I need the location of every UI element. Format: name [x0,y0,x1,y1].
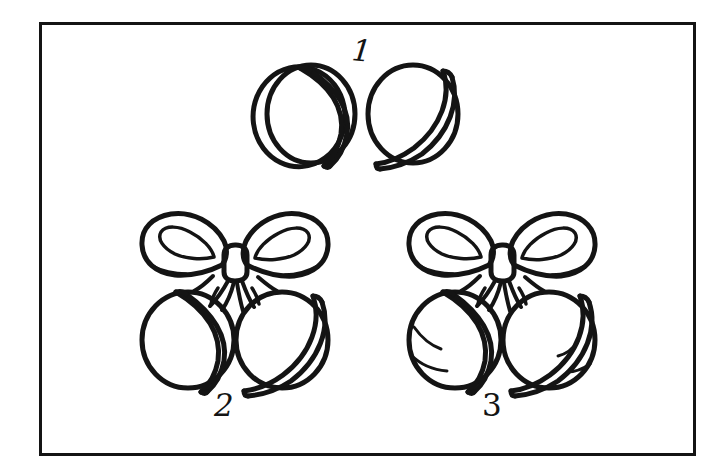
bell-band-cap-bottom [201,392,207,394]
bell-band-cap-bottom [468,392,474,394]
bell-band-cap-top [443,292,453,294]
bell-band-cap-top [176,292,186,294]
figure-3-number-label: 3 [482,390,502,421]
figure-1-number-label: 1 [350,35,372,67]
bell-band-cap-bottom [324,166,330,168]
figure-2-number-label: 2 [214,390,234,421]
line-art-illustration [0,0,709,471]
page-background [0,0,709,471]
bell-band-cap-top [300,68,310,70]
artwork-canvas: 1 2 3 [0,0,709,471]
